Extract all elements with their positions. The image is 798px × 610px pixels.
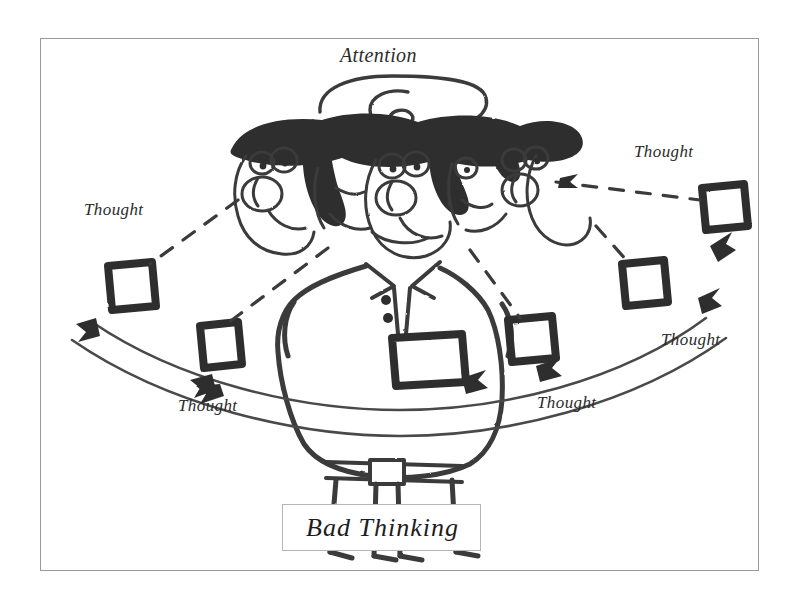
figure-root: Attention Thought Thought Thought Though…: [0, 0, 798, 610]
dashed-connector-left: [150, 200, 238, 264]
thought-box-center: [392, 334, 466, 386]
arrowhead-left-outer: [76, 318, 100, 342]
thought-box-inner-right: [508, 316, 556, 362]
thought-label-bottom-middle: Thought: [537, 393, 596, 413]
dashed-connector-right: [556, 182, 700, 200]
caption-box: Bad Thinking: [282, 504, 481, 551]
shirt-button-2: [383, 313, 393, 323]
dashed-connector-inner-right: [470, 250, 520, 318]
thought-label-top-right: Thought: [634, 142, 693, 162]
arrowhead-right-outer: [698, 288, 722, 314]
thought-label-bottom-left: Thought: [178, 396, 237, 416]
attention-label: Attention: [340, 44, 417, 67]
thought-label-left: Thought: [84, 200, 143, 220]
thought-box-right: [622, 260, 668, 306]
thought-box-far-right: [702, 184, 748, 230]
dashed-connector-far-right: [596, 226, 628, 262]
arrowhead-far-right: [710, 232, 736, 262]
thought-label-right: Thought: [661, 330, 720, 350]
caption-text: Bad Thinking: [283, 505, 482, 552]
shirt-button-1: [381, 295, 391, 305]
thought-box-inner-left: [200, 322, 242, 368]
thought-box-left: [108, 262, 156, 310]
arrowhead-dashed-right: [558, 174, 578, 188]
collar-shape: [366, 262, 440, 334]
